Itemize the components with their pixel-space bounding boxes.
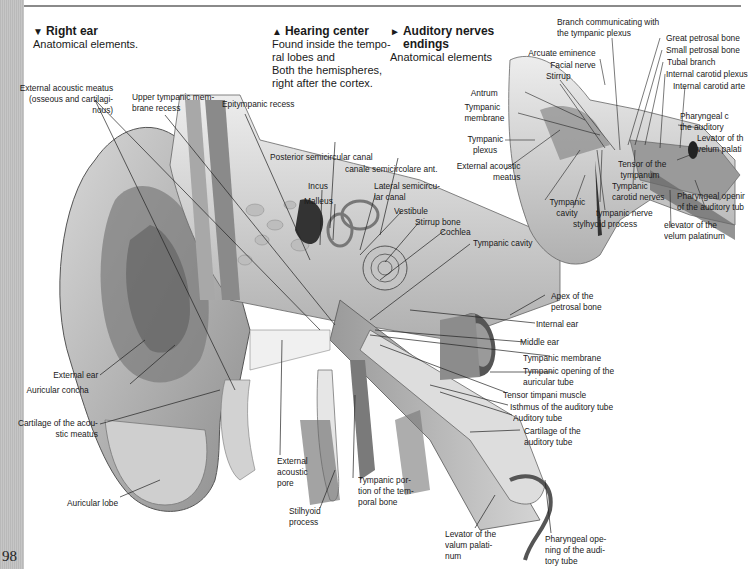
label-upper-tympanic-recess: Upper tympanic mem- brane recess: [132, 91, 214, 113]
inset-label-arcuate: Arcuate eminence: [529, 47, 596, 58]
label-line: lar canal: [374, 191, 440, 202]
label-incus: Incus: [308, 180, 328, 191]
label-stilhyoid-process: Stilhyoid process: [289, 505, 321, 527]
label-tympanic-portion: Tympanic por- tion of the tem- poral bon…: [358, 474, 414, 507]
label-line: the auditory: [680, 121, 729, 132]
label-line: process: [289, 516, 321, 527]
label-line: stic meatus: [18, 428, 98, 439]
label-anterior-semicircular-canal: canale semicircolare ant.: [345, 163, 437, 174]
label-auricular-lobe: Auricular lobe: [67, 497, 118, 508]
label-posterior-semicircular-canal: Posterior semicircular canal: [270, 151, 373, 162]
inset-label-tensor-tympanum: Tensor of the tympanum: [618, 158, 662, 180]
inset-label-pharyngeal-c: Pharyngeal c the auditory: [680, 110, 729, 132]
label-line: Cartilage of the: [524, 425, 581, 436]
label-pharyngeal-opening: Pharyngeal ope- ning of the audi- tory t…: [545, 533, 606, 566]
label-line: External: [277, 455, 308, 466]
label-levator-valum-palatinum: Levator of the valum palati- num: [445, 528, 496, 561]
label-line: carotid nerves: [612, 191, 665, 202]
inset-label-branch: Branch communicating with the tympanic p…: [557, 16, 659, 38]
label-line: valum palati-: [445, 539, 496, 550]
label-line: Cartilage of the acou-: [18, 417, 98, 428]
inset-label-great-petrosal: Great petrosal bone: [666, 32, 740, 43]
label-line: Pharyngeal c: [680, 110, 729, 121]
label-vestibule: Vestibule: [394, 205, 428, 216]
label-line: Apex of the: [551, 290, 602, 301]
label-line: petrosal bone: [551, 301, 602, 312]
label-isthmus: Isthmus of the auditory tube: [510, 401, 613, 412]
label-line: the tympanic plexus: [557, 27, 659, 38]
label-line: pore: [277, 477, 308, 488]
auditory-tube-drawing: [221, 300, 551, 560]
label-line: Upper tympanic mem-: [132, 91, 214, 102]
label-line: elevator of the: [664, 219, 725, 230]
label-auditory-tube: Auditory tube: [513, 412, 562, 423]
inset-label-carotid-plexus: Internal carotid plexus: [666, 68, 748, 79]
label-line: cavity: [549, 207, 584, 218]
label-tympanic-cavity: Tympanic cavity: [473, 237, 532, 248]
label-line: External acoustic: [456, 160, 520, 171]
label-tympanic-opening: Tympanic opening of the auricular tube: [523, 365, 614, 387]
label-line: nous): [20, 104, 113, 115]
inset-label-small-petrosal: Small petrosal bone: [666, 44, 740, 55]
label-external-acoustic-pore: External acoustic pore: [277, 455, 308, 488]
label-line: of the auditory tub: [677, 201, 745, 212]
label-line: Pharyngeal openir: [677, 190, 745, 201]
inset-label-carotid-nerves: Tympanic carotid nerves: [612, 180, 665, 202]
label-line: Tensor of the: [618, 158, 662, 169]
label-line: Levator of th: [697, 132, 743, 143]
label-line: Pharyngeal ope-: [545, 533, 606, 544]
inset-label-tympanic-nerve: tympanic nerve: [596, 207, 653, 218]
label-cochlea: Cochlea: [440, 226, 471, 237]
label-epitympanic-recess: Epitympanic recess: [222, 98, 294, 109]
label-auricular-concha: Auricular concha: [27, 384, 89, 395]
label-line: tion of the tem-: [358, 485, 414, 496]
inset-label-external-meatus: External acoustic meatus: [456, 160, 520, 182]
label-line: Levator of the: [445, 528, 496, 539]
label-line: Tympanic: [612, 180, 665, 191]
label-line: auricular tube: [523, 376, 614, 387]
label-lateral-semicircular-canal: Lateral semicircu- lar canal: [374, 180, 440, 202]
label-line: Tympanic: [549, 196, 584, 207]
inset-label-stirrup: Stirrup: [546, 70, 571, 81]
inset-label-carotid-artery: Internal carotid arte: [673, 80, 745, 91]
label-tensor-timpani: Tensor timpani muscle: [503, 389, 586, 400]
label-line: Tympanic por-: [358, 474, 414, 485]
label-apex-petrosal-bone: Apex of the petrosal bone: [551, 290, 602, 312]
inset-label-elevator-velum: elevator of the velum palatinum: [664, 219, 725, 241]
label-line: meatus: [456, 171, 520, 182]
inset-label-tympanic-membrane: Tympanic membrane: [464, 101, 499, 123]
label-line: brane recess: [132, 102, 214, 113]
label-line: poral bone: [358, 496, 414, 507]
label-line: tympanum: [618, 169, 662, 180]
label-line: membrane: [464, 112, 499, 123]
label-line: velum palatinum: [664, 230, 725, 241]
label-line: External acoustic meatus: [20, 82, 113, 93]
label-cartilage-auditory-tube: Cartilage of the auditory tube: [524, 425, 581, 447]
label-line: ning of the audi-: [545, 544, 606, 555]
label-malleus: Malleus: [304, 195, 333, 206]
label-line: Lateral semicircu-: [374, 180, 440, 191]
label-line: Tympanic: [464, 101, 499, 112]
label-line: num: [445, 550, 496, 561]
label-line: Branch communicating with: [557, 16, 659, 27]
label-line: (osseous and cartilagi-: [20, 93, 113, 104]
inset-label-levator-velum: Levator of th velum palati: [697, 132, 743, 154]
inset-label-tubal-branch: Tubal branch: [667, 56, 715, 67]
inset-label-stylhyoid: stylhyoid process: [573, 218, 637, 229]
label-line: acoustic: [277, 466, 308, 477]
inset-label-antrum: Antrum: [471, 87, 498, 98]
inset-label-tympanic-cavity: Tympanic cavity: [549, 196, 584, 218]
label-external-acoustic-meatus: External acoustic meatus (osseous and ca…: [20, 82, 113, 115]
label-tympanic-membrane: Tympanic membrane: [523, 352, 601, 363]
label-line: auditory tube: [524, 436, 581, 447]
inset-label-pharyngeal-opening: Pharyngeal openir of the auditory tub: [677, 190, 745, 212]
label-line: velum palati: [697, 143, 743, 154]
label-line: plexus: [467, 144, 502, 155]
label-middle-ear: Middle ear: [520, 336, 559, 347]
label-external-ear: External ear: [53, 369, 98, 380]
label-line: Stilhyoid: [289, 505, 321, 516]
label-cartilage-meatus: Cartilage of the acou- stic meatus: [18, 417, 98, 439]
label-line: Tympanic opening of the: [523, 365, 614, 376]
label-line: Tympanic: [467, 133, 502, 144]
inset-label-tympanic-plexus: Tympanic plexus: [467, 133, 502, 155]
